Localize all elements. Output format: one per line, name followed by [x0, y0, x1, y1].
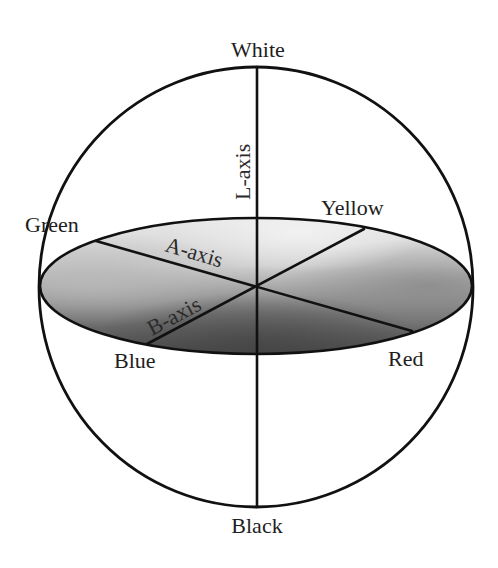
label-green: Green	[25, 212, 79, 237]
label-blue: Blue	[114, 348, 156, 373]
label-yellow: Yellow	[321, 195, 384, 220]
label-l-axis: L-axis	[230, 144, 255, 200]
label-black: Black	[231, 513, 282, 538]
lab-color-sphere-diagram: White Black Green Yellow Blue Red L-axis…	[0, 0, 498, 568]
label-red: Red	[388, 346, 423, 371]
label-white: White	[231, 37, 285, 62]
